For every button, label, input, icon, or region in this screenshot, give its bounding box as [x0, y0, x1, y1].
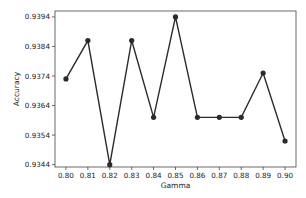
x-axis-label: Gamma	[161, 181, 191, 190]
x-axis: 0.800.810.820.830.840.850.860.870.880.89…	[58, 167, 294, 180]
x-tick-label: 0.89	[255, 171, 271, 180]
data-point	[129, 38, 134, 43]
x-tick-label: 0.83	[124, 171, 140, 180]
x-tick-label: 0.84	[146, 171, 162, 180]
x-tick-label: 0.86	[189, 171, 205, 180]
data-point	[195, 115, 200, 120]
y-tick-label: 0.9394	[25, 12, 51, 21]
y-tick-label: 0.9364	[25, 101, 51, 110]
data-point	[85, 38, 90, 43]
y-tick-label: 0.9384	[25, 42, 51, 51]
data-point	[63, 76, 68, 81]
x-tick-label: 0.87	[211, 171, 227, 180]
data-point	[217, 115, 222, 120]
data-point	[107, 162, 112, 167]
data-point	[151, 115, 156, 120]
series-line-accuracy	[66, 17, 285, 165]
x-tick-label: 0.82	[102, 171, 118, 180]
x-tick-label: 0.88	[233, 171, 249, 180]
x-tick-label: 0.90	[277, 171, 293, 180]
data-point	[173, 14, 178, 19]
y-axis: 0.93440.93540.93640.93740.93840.9394	[25, 12, 55, 169]
x-tick-label: 0.80	[58, 171, 74, 180]
data-point	[282, 138, 287, 143]
line-chart: 0.93440.93540.93640.93740.93840.9394 0.8…	[0, 0, 306, 198]
x-tick-label: 0.85	[167, 171, 183, 180]
y-tick-label: 0.9374	[25, 72, 51, 81]
y-axis-label: Accuracy	[12, 71, 21, 106]
data-point	[261, 70, 266, 75]
data-point	[239, 115, 244, 120]
x-tick-label: 0.81	[80, 171, 96, 180]
y-tick-label: 0.9354	[25, 131, 51, 140]
plot-frame	[55, 11, 296, 167]
y-tick-label: 0.9344	[25, 160, 51, 169]
